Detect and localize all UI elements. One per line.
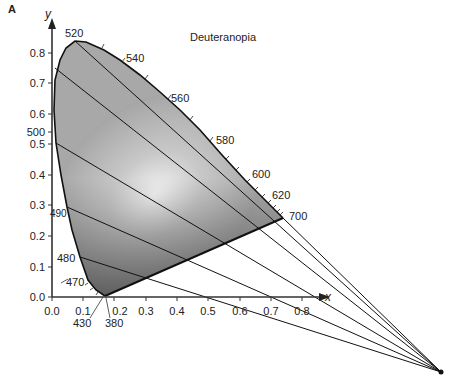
svg-text:0.6: 0.6 [30, 108, 45, 120]
svg-text:0.7: 0.7 [263, 305, 278, 317]
svg-text:0.5: 0.5 [200, 305, 215, 317]
x-tick-labels: 0.0 0.1 0.2 0.3 0.4 0.5 0.6 0.7 0.8 [44, 305, 309, 317]
diagram-title: Deuteranopia [190, 31, 257, 43]
wl-500: 500 [27, 126, 45, 138]
svg-text:0.8: 0.8 [294, 305, 309, 317]
svg-text:0.2: 0.2 [112, 305, 127, 317]
wl-600: 600 [252, 168, 270, 180]
svg-text:0.4: 0.4 [169, 305, 184, 317]
svg-text:0.7: 0.7 [30, 77, 45, 89]
svg-text:0.5: 0.5 [30, 138, 45, 150]
svg-text:0.0: 0.0 [30, 291, 45, 303]
wl-560: 560 [171, 92, 189, 104]
wl-700: 700 [289, 210, 307, 222]
panel-label: A [8, 3, 16, 15]
svg-text:0.3: 0.3 [138, 305, 153, 317]
wl-430: 430 [73, 317, 91, 329]
svg-text:0.4: 0.4 [30, 169, 45, 181]
wl-580: 580 [216, 134, 234, 146]
wl-490: 490 [50, 208, 67, 219]
wl-620: 620 [272, 189, 290, 201]
chromaticity-diagram: 0.0 0.1 0.2 0.3 0.4 0.5 0.6 0.7 0.8 0.0 … [0, 0, 460, 385]
copunctal-point [439, 370, 444, 375]
svg-text:0.1: 0.1 [30, 261, 45, 273]
y-tick-labels: 0.0 0.1 0.2 0.3 0.4 0.5 0.6 0.7 0.8 [30, 47, 45, 303]
confusion-line-6 [283, 218, 441, 372]
svg-text:0.1: 0.1 [75, 305, 90, 317]
svg-text:0.3: 0.3 [30, 199, 45, 211]
y-axis-label: y [44, 7, 52, 21]
svg-text:0.6: 0.6 [232, 305, 247, 317]
wl-540: 540 [126, 52, 144, 64]
spectral-locus-region [5, 30, 305, 341]
x-axis-label: x [324, 290, 332, 304]
svg-text:0.2: 0.2 [30, 230, 45, 242]
svg-text:0.0: 0.0 [44, 305, 59, 317]
wl-520: 520 [65, 27, 83, 39]
confusion-line-5 [80, 257, 441, 372]
wl-380: 380 [105, 317, 123, 329]
wl-470: 470 [66, 276, 84, 288]
svg-text:0.8: 0.8 [30, 47, 45, 59]
wl-480: 480 [57, 252, 75, 264]
